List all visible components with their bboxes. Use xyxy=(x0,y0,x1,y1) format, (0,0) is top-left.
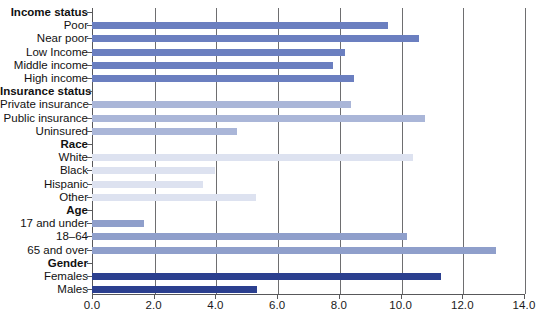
bar xyxy=(92,128,237,135)
bar xyxy=(92,101,351,108)
bar xyxy=(92,35,419,42)
bar-row: Uninsured xyxy=(0,125,536,138)
group-label: Gender xyxy=(0,257,88,270)
bar-row: 17 and under xyxy=(0,217,536,230)
bar xyxy=(92,220,144,227)
group-label: Age xyxy=(0,204,88,217)
bar-row: Middle income xyxy=(0,59,536,72)
category-tickmark xyxy=(87,91,92,92)
x-tick-label: 12.0 xyxy=(451,299,474,311)
bar-row: 18–64 xyxy=(0,230,536,243)
category-label: Near poor xyxy=(0,32,88,45)
group-header-row: Age xyxy=(0,204,536,217)
bar-row: Females xyxy=(0,270,536,283)
category-label: Other xyxy=(0,191,88,204)
category-tickmark xyxy=(87,263,92,264)
category-label: High income xyxy=(0,72,88,85)
category-label: Middle income xyxy=(0,59,88,72)
category-label: Hispanic xyxy=(0,178,88,191)
bar xyxy=(92,22,388,29)
bar-row: High income xyxy=(0,72,536,85)
x-tick-label: 8.0 xyxy=(331,299,347,311)
category-label: Poor xyxy=(0,19,88,32)
bar xyxy=(92,115,425,122)
bar xyxy=(92,49,345,56)
category-label: Private insurance xyxy=(0,98,88,111)
bar-row: Hispanic xyxy=(0,178,536,191)
bar-row: Private insurance xyxy=(0,98,536,111)
bar-row: Near poor xyxy=(0,32,536,45)
group-label: Race xyxy=(0,138,88,151)
category-label: Black xyxy=(0,164,88,177)
category-label: Low Income xyxy=(0,46,88,59)
category-label: 18–64 xyxy=(0,230,88,243)
category-label: Males xyxy=(0,283,88,296)
bar xyxy=(92,75,354,82)
bar xyxy=(92,154,413,161)
category-tickmark xyxy=(87,210,92,211)
group-label: Income status xyxy=(0,6,88,19)
bar-row: Males xyxy=(0,283,536,296)
category-tickmark xyxy=(87,144,92,145)
x-tick-label: 14.0 xyxy=(513,299,536,311)
bar-row: Public insurance xyxy=(0,112,536,125)
bar-row: Low Income xyxy=(0,46,536,59)
x-tick-label: 0.0 xyxy=(84,299,100,311)
category-label: Public insurance xyxy=(0,112,88,125)
category-label: 17 and under xyxy=(0,217,88,230)
group-header-row: Insurance status xyxy=(0,85,536,98)
x-tick-label: 6.0 xyxy=(269,299,285,311)
bar-row: Poor xyxy=(0,19,536,32)
category-label: Females xyxy=(0,270,88,283)
bar-row: Other xyxy=(0,191,536,204)
x-tick-label: 10.0 xyxy=(389,299,412,311)
x-tick-label: 4.0 xyxy=(207,299,223,311)
group-header-row: Income status xyxy=(0,6,536,19)
bar xyxy=(92,286,257,293)
bar xyxy=(92,273,441,280)
bar xyxy=(92,233,407,240)
bar xyxy=(92,167,215,174)
group-label: Insurance status xyxy=(0,85,88,98)
group-header-row: Gender xyxy=(0,257,536,270)
bar xyxy=(92,194,256,201)
bar-row: 65 and over xyxy=(0,244,536,257)
category-tickmark xyxy=(87,12,92,13)
group-header-row: Race xyxy=(0,138,536,151)
bar-row: White xyxy=(0,151,536,164)
bar-row: Black xyxy=(0,164,536,177)
category-label: 65 and over xyxy=(0,244,88,257)
category-label: Uninsured xyxy=(0,125,88,138)
x-tick-label: 2.0 xyxy=(146,299,162,311)
bar xyxy=(92,247,496,254)
bar xyxy=(92,181,203,188)
category-label: White xyxy=(0,151,88,164)
bar xyxy=(92,62,333,69)
horizontal-bar-chart: 0.02.04.06.08.010.012.014.0 Income statu… xyxy=(0,0,536,318)
